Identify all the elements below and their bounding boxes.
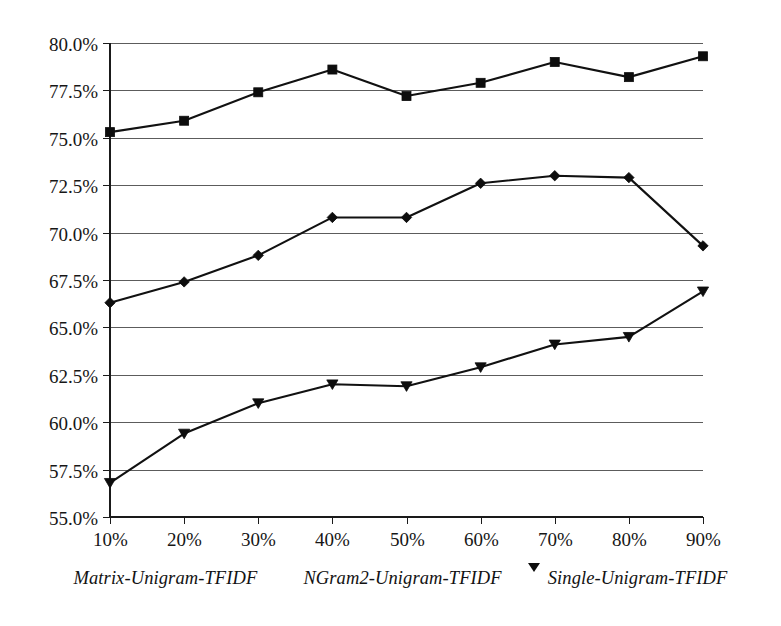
legend-entry-matrix-unigram-tfidf: Matrix-Unigram-TFIDF <box>53 568 257 589</box>
y-axis-tick-label: 60.0% <box>49 413 98 434</box>
diamond-marker-icon <box>550 171 560 181</box>
chart-figure: 55.0%57.5%60.0%62.5%65.0%67.5%70.0%72.5%… <box>0 0 781 626</box>
square-marker-icon <box>328 65 337 74</box>
diamond-marker-icon <box>253 250 263 260</box>
y-axis-tick-label: 55.0% <box>49 508 98 529</box>
x-axis-tick-label: 60% <box>464 529 499 550</box>
y-axis-tick-label: 57.5% <box>49 461 98 482</box>
y-axis-tick-label: 65.0% <box>49 318 98 339</box>
diamond-marker-icon <box>401 212 411 222</box>
series-2 <box>105 171 708 308</box>
legend-entry-single-unigram-tfidf: Single-Unigram-TFIDF <box>528 568 728 589</box>
legend-entry-ngram2-unigram-tfidf: NGram2-Unigram-TFIDF <box>283 568 501 589</box>
x-axis-tick-label: 10% <box>93 529 128 550</box>
x-axis-tick-label: 70% <box>538 529 573 550</box>
square-marker-icon <box>106 128 115 137</box>
legend-label: Single-Unigram-TFIDF <box>548 568 728 589</box>
square-marker-icon <box>624 73 633 82</box>
y-axis-tick-label: 77.5% <box>49 81 98 102</box>
square-marker-icon <box>550 57 559 66</box>
diamond-marker-icon <box>105 298 115 308</box>
x-axis-tick-label: 50% <box>390 529 425 550</box>
y-tick-marks-group <box>103 44 110 518</box>
x-axis-tick-label: 30% <box>241 529 276 550</box>
x-tick-marks-group <box>111 517 704 524</box>
x-tick-labels-group: 10%20%30%40%50%60%70%80%90% <box>93 529 721 550</box>
square-marker-icon <box>53 572 66 585</box>
series-3 <box>104 287 708 488</box>
square-marker-icon <box>476 78 485 87</box>
legend-label: NGram2-Unigram-TFIDF <box>303 568 501 589</box>
y-axis-tick-label: 75.0% <box>49 129 98 150</box>
x-axis-tick-label: 40% <box>315 529 350 550</box>
y-axis-tick-label: 62.5% <box>49 366 98 387</box>
chart-legend: Matrix-Unigram-TFIDF NGram2-Unigram-TFID… <box>0 561 781 595</box>
y-axis-tick-label: 72.5% <box>49 176 98 197</box>
triangle-down-marker-icon <box>253 399 264 409</box>
x-axis-tick-label: 90% <box>686 529 721 550</box>
diamond-marker-icon <box>179 277 189 287</box>
y-tick-labels-group: 55.0%57.5%60.0%62.5%65.0%67.5%70.0%72.5%… <box>49 34 98 529</box>
square-marker-icon <box>254 88 263 97</box>
x-axis-tick-label: 20% <box>167 529 202 550</box>
triangle-down-marker-icon <box>528 572 541 585</box>
square-marker-icon <box>180 116 189 125</box>
y-axis-tick-label: 67.5% <box>49 271 98 292</box>
line-chart: 55.0%57.5%60.0%62.5%65.0%67.5%70.0%72.5%… <box>0 0 781 626</box>
y-axis-tick-label: 70.0% <box>49 224 98 245</box>
diamond-marker-icon <box>327 212 337 222</box>
x-axis-tick-label: 80% <box>612 529 647 550</box>
series-1 <box>106 52 708 137</box>
triangle-down-marker-icon <box>697 287 708 297</box>
diamond-marker-icon <box>283 572 296 585</box>
y-axis-tick-label: 80.0% <box>49 34 98 55</box>
square-marker-icon <box>402 92 411 101</box>
legend-label: Matrix-Unigram-TFIDF <box>73 568 257 589</box>
triangle-down-marker-icon <box>104 478 115 488</box>
square-marker-icon <box>699 52 708 61</box>
series-line <box>110 176 703 303</box>
diamond-marker-icon <box>475 178 485 188</box>
